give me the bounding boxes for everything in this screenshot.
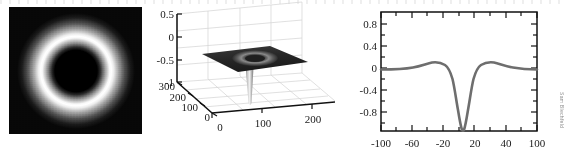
image-noise-overlay bbox=[9, 7, 142, 134]
z-tick-1: 0 bbox=[169, 31, 175, 43]
x-tick-1: -60 bbox=[405, 137, 420, 149]
x-tick-200: 200 bbox=[305, 113, 322, 125]
line-plot-svg: 0.8 0.4 0 -0.4 -0.8 -100 bbox=[335, 0, 567, 160]
y-tick-4: -0.8 bbox=[360, 106, 378, 118]
surface-well-mouth bbox=[245, 55, 265, 62]
x-tick-0: -100 bbox=[371, 137, 392, 149]
x-tick-4: 40 bbox=[501, 137, 513, 149]
profile-curve bbox=[381, 62, 537, 130]
y-tick-2: 0 bbox=[372, 62, 378, 74]
y-tick-0: 0.8 bbox=[363, 18, 377, 30]
y-axis-ticks bbox=[381, 24, 537, 123]
x-tick-100: 100 bbox=[255, 117, 272, 129]
panel-b-surface-plot: 0.5 0 -0.5 -1 300 200 100 0 0 100 bbox=[150, 0, 335, 160]
ring-intensity-image bbox=[9, 7, 142, 134]
y-tick-3: -0.4 bbox=[360, 84, 378, 96]
y-tick-100: 100 bbox=[182, 101, 199, 113]
x-tick-2: -20 bbox=[436, 137, 451, 149]
surface-plot-svg: 0.5 0 -0.5 -1 300 200 100 0 0 100 bbox=[150, 0, 335, 160]
z-tick-2: -0.5 bbox=[157, 54, 175, 66]
panel-a-intensity-image bbox=[0, 0, 150, 160]
y-tick-1: 0.4 bbox=[363, 40, 377, 52]
y-tick-0: 0 bbox=[205, 111, 211, 123]
x-tick-5: 100 bbox=[529, 137, 546, 149]
x-tick-0: 0 bbox=[217, 121, 223, 133]
panel-c-line-plot: 0.8 0.4 0 -0.4 -0.8 -100 bbox=[335, 0, 567, 160]
figure-container: 0.5 0 -0.5 -1 300 200 100 0 0 100 bbox=[0, 0, 567, 160]
x-tick-3: 20 bbox=[470, 137, 482, 149]
z-tick-0: 0.5 bbox=[160, 8, 174, 20]
watermark-text: Sam Blechfeld bbox=[559, 92, 565, 128]
